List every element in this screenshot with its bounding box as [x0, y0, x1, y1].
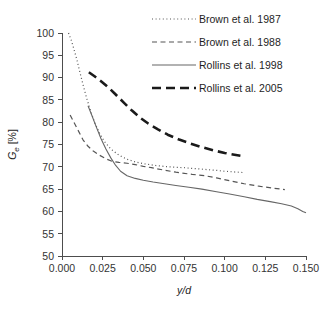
y-axis-ticks: 50556065707580859095100	[36, 27, 62, 262]
y-axis-title-text: Ge [%]	[6, 129, 21, 160]
x-tick-label: 0.025	[90, 262, 116, 274]
legend-label-3: Rollins et al. 2005	[199, 82, 283, 94]
x-tick-label: 0.100	[212, 262, 238, 274]
y-axis-title: Ge [%]	[6, 129, 21, 160]
x-axis-title: y/d	[176, 284, 192, 296]
legend-label-0: Brown et al. 1987	[199, 13, 281, 25]
y-tick-label: 65	[42, 183, 54, 195]
chart-container: 50556065707580859095100 0.0000.0250.0500…	[0, 0, 333, 311]
x-tick-label: 0.125	[252, 262, 278, 274]
y-tick-label: 70	[42, 161, 54, 173]
series-line-1	[70, 115, 285, 189]
y-tick-label: 50	[42, 250, 54, 262]
y-tick-label: 80	[42, 116, 54, 128]
x-tick-label: 0.150	[293, 262, 319, 274]
y-tick-label: 85	[42, 94, 54, 106]
x-tick-label: 0.050	[130, 262, 156, 274]
x-tick-label: 0.075	[171, 262, 197, 274]
y-tick-label: 95	[42, 49, 54, 61]
legend-label-1: Brown et al. 1988	[199, 36, 281, 48]
series-line-2	[88, 106, 306, 213]
y-tick-label: 75	[42, 138, 54, 150]
y-tick-label: 90	[42, 71, 54, 83]
x-axis-ticks: 0.0000.0250.0500.0750.1000.1250.150	[49, 256, 319, 274]
y-tick-label: 55	[42, 228, 54, 240]
line-chart-svg: 50556065707580859095100 0.0000.0250.0500…	[0, 0, 333, 311]
y-tick-label: 60	[42, 205, 54, 217]
y-tick-label: 100	[36, 27, 54, 39]
x-tick-label: 0.000	[49, 262, 75, 274]
legend-label-2: Rollins et al. 1998	[199, 59, 283, 71]
chart-legend: Brown et al. 1987Brown et al. 1988Rollin…	[152, 13, 283, 94]
